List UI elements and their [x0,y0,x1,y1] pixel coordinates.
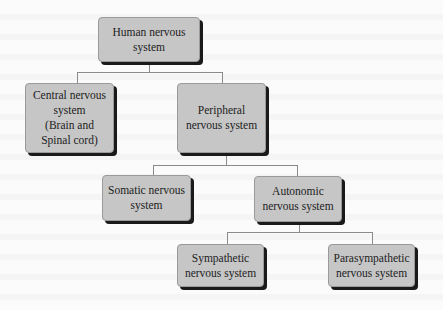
node-central-nervous-system: Central nervous system (Brain and Spinal… [25,83,114,153]
connector-autonomic-down [299,222,300,232]
node-label: Human nervous system [112,25,185,55]
connector-to-autonomic [297,165,298,176]
connector-human-down [149,62,150,72]
connector-level1-horizontal [77,72,223,73]
node-somatic-nervous-system: Somatic nervous system [102,175,191,221]
node-parasympathetic-nervous-system: Parasympathetic nervous system [328,244,415,287]
node-label: Autonomic nervous system [262,184,333,214]
node-label: Sympathetic nervous system [185,251,256,281]
node-label: Parasympathetic nervous system [333,251,409,281]
node-human-nervous-system: Human nervous system [98,17,200,62]
node-label: Peripheral nervous system [186,103,257,133]
node-peripheral-nervous-system: Peripheral nervous system [177,83,266,153]
connector-to-sympathetic [227,232,228,244]
node-sympathetic-nervous-system: Sympathetic nervous system [177,244,264,287]
connector-level2-horizontal [153,165,298,166]
connector-to-peripheral [222,72,223,83]
node-label: Somatic nervous system [108,183,185,213]
connector-to-parasympathetic [372,232,373,244]
connector-to-somatic [153,165,154,175]
node-autonomic-nervous-system: Autonomic nervous system [254,176,342,222]
connector-peripheral-down [226,153,227,165]
node-label: Central nervous system (Brain and Spinal… [33,88,106,148]
connector-to-central [77,72,78,83]
connector-level3-horizontal [227,232,373,233]
